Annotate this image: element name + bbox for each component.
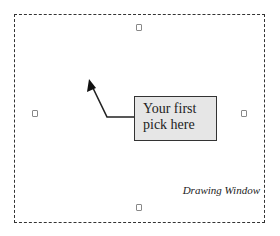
callout-line-1: Your first (143, 101, 216, 117)
callout-line-2: pick here (143, 117, 216, 133)
drawing-window-label: Drawing Window (183, 184, 260, 196)
callout-box: Your first pick here (134, 96, 217, 141)
